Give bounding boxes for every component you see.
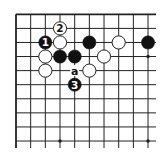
move-number: 3 (71, 79, 78, 91)
move-number: 2 (56, 22, 63, 34)
black-stone-3: 3 (68, 78, 81, 91)
go-board: a 123 (0, 0, 167, 161)
black-stone (141, 36, 154, 49)
white-stone-2: 2 (53, 22, 66, 35)
star-point (146, 55, 150, 59)
white-stone (112, 36, 125, 49)
black-stone (53, 50, 66, 63)
black-stone-1: 1 (39, 36, 52, 49)
white-stone (83, 64, 96, 77)
point-label-a: a (71, 65, 78, 78)
star-point (146, 139, 150, 143)
black-stone (68, 50, 81, 63)
white-stone (39, 64, 52, 77)
move-number: 1 (42, 36, 49, 48)
white-stone (39, 50, 52, 63)
board-marks: a (70, 65, 79, 78)
black-stone (83, 36, 96, 49)
white-stone (97, 50, 110, 63)
grid-lines (16, 14, 156, 148)
white-stone (53, 36, 66, 49)
star-point (58, 139, 62, 143)
